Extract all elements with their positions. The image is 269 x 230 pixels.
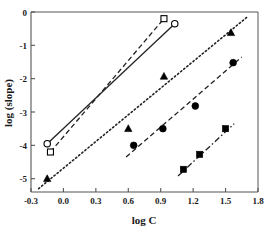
y-tick-label: -2	[20, 74, 28, 84]
marker-filled-square	[222, 126, 228, 132]
scatter-plot: -0.30.00.30.60.91.21.51.8 0-1-2-3-4-5 lo…	[0, 0, 269, 230]
y-tick-label: -5	[20, 174, 28, 184]
marker-filled-square	[180, 166, 186, 172]
y-tick-label: -4	[20, 141, 28, 151]
marker-open-square	[47, 149, 53, 155]
marker-filled-circle	[230, 59, 237, 66]
marker-filled-square	[197, 151, 203, 157]
x-tick-label: 1.2	[188, 196, 200, 206]
x-tick-label: 1.8	[252, 196, 264, 206]
chart-figure: -0.30.00.30.60.91.21.51.8 0-1-2-3-4-5 lo…	[0, 0, 269, 230]
marker-filled-circle	[130, 142, 137, 149]
y-tick-label: -3	[20, 108, 28, 118]
marker-filled-circle	[159, 125, 166, 132]
x-tick-label: 0.9	[155, 196, 167, 206]
y-tick-label: -1	[20, 41, 28, 51]
x-axis-title: log C	[132, 214, 157, 226]
marker-open-circle	[172, 20, 178, 26]
y-tick-label: 0	[23, 8, 28, 18]
x-tick-label: 1.5	[220, 196, 232, 206]
marker-filled-circle	[192, 103, 199, 110]
y-axis-title: log (slope)	[2, 79, 15, 127]
marker-open-square	[161, 16, 167, 22]
marker-open-circle	[44, 140, 50, 146]
x-tick-label: 0.6	[123, 196, 135, 206]
x-tick-label: -0.3	[24, 196, 39, 206]
x-tick-label: 0.3	[90, 196, 102, 206]
x-tick-label: 0.0	[58, 196, 70, 206]
